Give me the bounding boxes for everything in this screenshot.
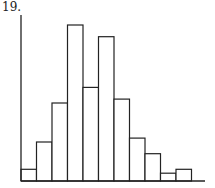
histogram-bar — [130, 138, 146, 181]
histogram-bar — [52, 103, 68, 181]
histogram-bar — [21, 169, 37, 181]
histogram — [0, 0, 215, 188]
histogram-bar — [114, 99, 130, 181]
histogram-bar — [145, 154, 161, 181]
histogram-bar — [83, 87, 99, 181]
histogram-bar — [68, 25, 84, 181]
histogram-bar — [161, 173, 177, 181]
histogram-bar — [37, 142, 53, 181]
histogram-bar — [99, 37, 115, 181]
histogram-bar — [176, 169, 192, 181]
